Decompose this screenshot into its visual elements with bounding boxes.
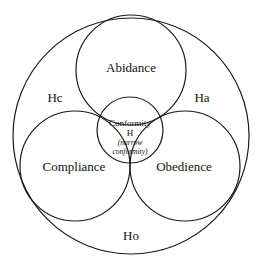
hc-label: Hc [47, 90, 62, 105]
compliance-label: Compliance [43, 159, 106, 174]
ho-label: Ho [123, 228, 139, 243]
conformity-venn-diagram: Abidance Compliance Obedience Hc Ha Ho C… [0, 0, 260, 270]
conformity-symbol: H [127, 128, 134, 138]
conformity-title: Conformity [109, 118, 151, 128]
abidance-label: Abidance [106, 60, 156, 75]
ha-label: Ha [194, 90, 209, 105]
conformity-subtitle-1: (narrow [118, 138, 142, 147]
conformity-subtitle-2: conformity) [113, 147, 148, 156]
obedience-label: Obedience [156, 159, 212, 174]
